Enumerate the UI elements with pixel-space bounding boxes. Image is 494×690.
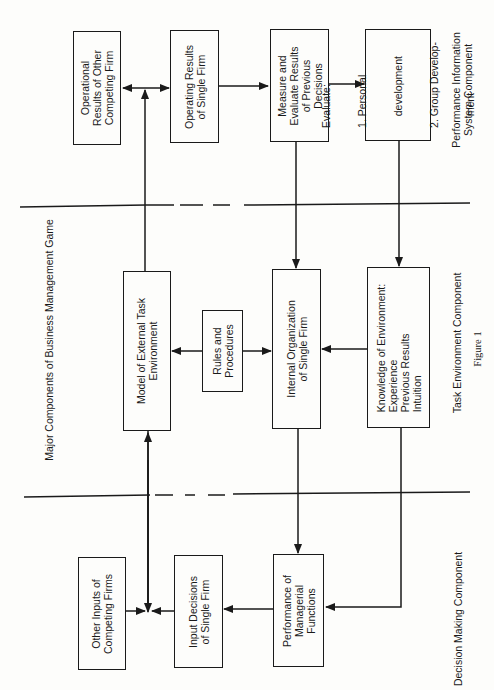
label-task-environment-component: Task Environment Component: [451, 273, 463, 414]
box-text: of Single Firm: [195, 44, 207, 128]
box-text: Competing Firm: [103, 50, 115, 126]
box-text: Functions: [305, 575, 317, 647]
box-text: Intuition: [411, 283, 423, 411]
box-operating-results-single-firm: Operating Results of Single Firm: [170, 30, 219, 143]
box-knowledge-of-environment: Knowledge of Environment: Experience Pre…: [367, 267, 430, 428]
figure-label: Figure 1: [472, 331, 484, 366]
box-text: 2. Group Develop-: [428, 42, 440, 128]
box-rules-procedures: Rules and Procedures: [202, 310, 243, 392]
box-other-inputs-competing-firms: Other Inputs of Competing Firms: [78, 557, 126, 670]
box-text: Knowledge of Environment:: [375, 283, 387, 411]
box-text: Managerial: [293, 575, 305, 647]
box-text: Operating Results: [183, 44, 195, 128]
box-text: Measure and: [276, 46, 288, 125]
box-text: Competing Firms: [102, 574, 114, 654]
box-text: Other Inputs of: [90, 574, 102, 654]
box-internal-organization: Internal Organization of Single Firm: [272, 269, 321, 429]
box-evaluate-development: Evaluate: 1. Personal development 2. Gro…: [365, 29, 431, 141]
label-performance-information-component: Performance Information System Component: [450, 32, 474, 148]
box-text: Environment: [147, 298, 159, 404]
box-text: Evaluate:: [320, 42, 332, 128]
box-text: 1. Personal: [356, 42, 368, 128]
box-text: Previous Results: [399, 283, 411, 411]
box-text: Operational: [79, 50, 91, 126]
label-line: System Component: [462, 32, 474, 148]
box-text: Procedures: [223, 324, 235, 378]
box-input-decisions-single-firm: Input Decisions of Single Firm: [174, 555, 223, 668]
box-text: of Single Firm: [297, 300, 309, 397]
box-text: Model of External Task: [135, 298, 147, 404]
box-text: Performance of: [281, 575, 293, 647]
label-decision-making-component: Decision Making Component: [452, 552, 464, 686]
box-performance-managerial-functions: Performance of Managerial Functions: [273, 554, 324, 667]
box-model-external-task-environment: Model of External Task Environment: [123, 271, 171, 431]
box-text: Internal Organization: [285, 300, 297, 397]
box-text: of Single Firm: [199, 576, 211, 648]
box-text: Results of Other: [91, 50, 103, 126]
box-text: Rules and: [211, 324, 223, 378]
label-line: Performance Information: [450, 32, 462, 148]
business-game-diagram: Operational Results of Other Competing F…: [0, 0, 494, 690]
box-operational-results-other-firm: Operational Results of Other Competing F…: [73, 31, 121, 145]
box-text: Input Decisions: [187, 576, 199, 648]
box-text: Experience: [387, 283, 399, 411]
box-text: development: [392, 42, 404, 128]
diagram-title: Major Components of Business Management …: [43, 219, 55, 461]
